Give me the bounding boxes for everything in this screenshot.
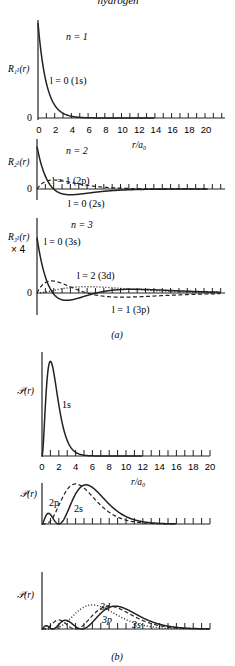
x-axis-label: r/a₀ — [131, 477, 145, 487]
x-tick-label: 2 — [56, 461, 61, 472]
x-tick-label: 16 — [167, 124, 178, 135]
n-label: n = 3 — [71, 219, 93, 230]
x-tick-label: 2 — [53, 124, 58, 135]
x-tick-label: 20 — [205, 461, 216, 472]
x-tick-label: 14 — [151, 124, 162, 135]
x-tick-labels: 02468101214161820 — [36, 124, 211, 135]
curve-label-1s: 1s — [62, 399, 71, 410]
curve-label-3p: 3p — [101, 614, 112, 625]
panel-p2: 𝒫(r) 2p 2s — [20, 483, 210, 525]
x-tick-label: 6 — [86, 124, 91, 135]
x-axis-label: r/a₀ — [132, 140, 146, 150]
x-tick-label: 10 — [121, 461, 132, 472]
curve-1s — [38, 23, 154, 118]
y-axis-label: 𝒫(r) — [20, 489, 37, 500]
y-axis-label: R₃ₗ(r) — [7, 232, 29, 243]
curve-label-1s: l = 0 (1s) — [50, 75, 86, 87]
partial-title: hydrogen — [97, 0, 139, 6]
n-label: n = 1 — [66, 31, 88, 42]
x-tick-label: 14 — [154, 461, 165, 472]
x-tick-label: 12 — [138, 461, 149, 472]
scale-label: × 4 — [11, 244, 26, 255]
panel-n2: R₂ₗ(r) 0 n = 2 l = 1 (2p) l = 0 (2s) — [7, 139, 225, 210]
y-axis-label: R₂ₗ(r) — [7, 157, 29, 168]
caption-b: (b) — [111, 651, 123, 663]
x-tick-label: 0 — [36, 124, 41, 135]
zero-label: 0 — [27, 183, 32, 194]
x-tick-label: 16 — [171, 461, 182, 472]
panel-p1s: 02468101214161820 𝒫(r) 1s r/a₀ — [17, 352, 215, 487]
x-tick-label: 20 — [201, 124, 212, 135]
x-tick-label: 4 — [73, 461, 78, 472]
x-tick-label: 4 — [70, 124, 75, 135]
x-tick-label: 8 — [107, 461, 112, 472]
curve-2s — [37, 147, 208, 195]
x-tick-labels: 02468101214161820 — [39, 461, 215, 472]
caption-a: (a) — [111, 329, 123, 341]
zero-label: 0 — [27, 287, 32, 298]
y-axis-label: 𝒫(r) — [17, 590, 34, 601]
curve-label-2p: 2p — [49, 497, 59, 508]
x-tick-label: 8 — [103, 124, 108, 135]
x-tick-label: 10 — [117, 124, 128, 135]
curve-1s — [42, 361, 142, 456]
y-axis-label: R₁ₗ(r) — [7, 64, 29, 75]
curve-label-3s: 3s — [131, 619, 141, 630]
panel-n1: 02468101214161820 R₁ₗ(r) 0 n = 1 l = 0 (… — [7, 20, 225, 150]
x-tick-label: 12 — [134, 124, 145, 135]
curve-label-3p: l = 1 (3p) — [112, 304, 150, 316]
curve-label-3d: l = 2 (3d) — [77, 270, 115, 282]
n-label: n = 2 — [66, 145, 88, 156]
x-tick-label: 18 — [184, 124, 195, 135]
panel-p3: 𝒫(r) 3d 3p 3s — [17, 572, 210, 630]
y-axis-label: 𝒫(r) — [17, 386, 34, 397]
curve-label-2s: l = 0 (2s) — [68, 198, 104, 210]
x-tick-label: 18 — [188, 461, 199, 472]
curve-label-2s: 2s — [74, 503, 83, 514]
x-tick-label: 6 — [90, 461, 95, 472]
curve-label-2p: l = 1 (2p) — [52, 175, 90, 187]
panel-n3: R₃ₗ(r) × 4 0 n = 3 l = 0 (3s) l = 2 (3d)… — [7, 218, 225, 316]
zero-label: 0 — [27, 112, 32, 123]
curve-label-3s: l = 0 (3s) — [44, 236, 80, 248]
x-tick-label: 0 — [39, 461, 44, 472]
hydrogen-radial-figure: hydrogen 02468101214161820 R₁ₗ(r) 0 n = … — [0, 0, 235, 666]
